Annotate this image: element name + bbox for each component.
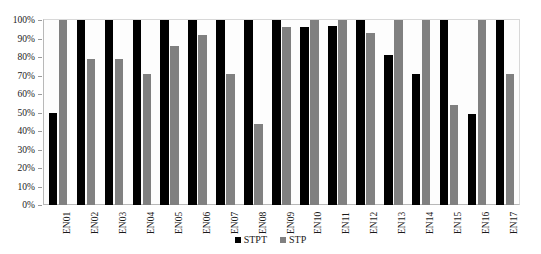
y-axis-tick-label: 60%: [18, 89, 35, 99]
y-axis-tick-mark: [38, 94, 42, 95]
y-axis-tick-label: 40%: [18, 126, 35, 136]
legend-item-stpt[interactable]: STPT: [235, 234, 267, 245]
x-axis-tick-label: EN05: [174, 212, 184, 234]
legend-swatch-stpt-icon: [235, 237, 241, 243]
x-axis-tick-label: EN10: [313, 212, 323, 234]
bar-stp-en16[interactable]: [478, 20, 487, 205]
bars-layer: [44, 20, 519, 205]
x-axis-tick-label: EN07: [230, 212, 240, 234]
y-axis-tick-mark: [38, 76, 42, 77]
bar-stpt-en14[interactable]: [412, 74, 421, 205]
y-axis-tick-mark: [38, 57, 42, 58]
y-axis-tick-mark: [38, 150, 42, 151]
y-axis-tick-mark: [38, 131, 42, 132]
bar-stpt-en10[interactable]: [300, 27, 309, 205]
chart-legend: STPT STP: [0, 234, 541, 245]
bar-group: [351, 20, 379, 205]
y-axis-tick-mark: [38, 39, 42, 40]
bar-stp-en14[interactable]: [422, 20, 431, 205]
legend-label-stpt: STPT: [244, 234, 267, 245]
y-axis-tick-mark: [38, 113, 42, 114]
y-axis-tick-label: 90%: [18, 34, 35, 44]
x-axis-tick-label: EN15: [453, 212, 463, 234]
bar-stp-en03[interactable]: [115, 59, 124, 205]
x-axis-tick-label: EN02: [90, 212, 100, 234]
bar-group: [379, 20, 407, 205]
y-axis-tick-label: 0%: [22, 200, 35, 210]
bar-stp-en09[interactable]: [282, 27, 291, 205]
x-axis-tick-label: EN06: [202, 212, 212, 234]
bar-stp-en05[interactable]: [170, 46, 179, 205]
x-axis-tick-label: EN04: [146, 212, 156, 234]
bar-group: [72, 20, 100, 205]
x-axis-tick-label: EN16: [481, 212, 491, 234]
bar-stpt-en12[interactable]: [356, 20, 365, 205]
bar-stp-en07[interactable]: [226, 74, 235, 205]
bar-stp-en11[interactable]: [338, 20, 347, 205]
x-axis-tick-label: EN09: [286, 212, 296, 234]
bar-stpt-en17[interactable]: [496, 20, 505, 205]
bar-group: [128, 20, 156, 205]
bar-stpt-en02[interactable]: [77, 20, 86, 205]
bar-stpt-en11[interactable]: [328, 26, 337, 205]
y-axis-tick-label: 50%: [18, 108, 35, 118]
y-axis: 0%10%20%30%40%50%60%70%80%90%100%: [0, 0, 40, 254]
x-axis-tick-label: EN11: [341, 212, 351, 234]
bar-group: [407, 20, 435, 205]
x-axis-tick-label: EN17: [509, 212, 519, 234]
y-axis-tick-mark: [38, 205, 42, 206]
y-axis-tick-label: 80%: [18, 52, 35, 62]
bar-stpt-en03[interactable]: [105, 20, 114, 205]
bar-group: [212, 20, 240, 205]
y-axis-tick-mark: [38, 168, 42, 169]
y-axis-tick-label: 20%: [18, 163, 35, 173]
y-axis-tick-label: 10%: [18, 182, 35, 192]
bar-stpt-en08[interactable]: [244, 20, 253, 205]
bar-stpt-en07[interactable]: [216, 20, 225, 205]
bar-stpt-en09[interactable]: [272, 20, 281, 205]
x-axis-tick-label: EN01: [62, 212, 72, 234]
y-axis-tick-label: 70%: [18, 71, 35, 81]
x-axis-tick-label: EN13: [397, 212, 407, 234]
x-axis-tick-label: EN12: [369, 212, 379, 234]
bar-stp-en08[interactable]: [254, 124, 263, 205]
legend-label-stp: STP: [289, 234, 306, 245]
legend-item-stp[interactable]: STP: [280, 234, 306, 245]
bar-group: [491, 20, 519, 205]
x-axis-tick-label: EN08: [258, 212, 268, 234]
bar-stp-en02[interactable]: [87, 59, 96, 205]
bar-stp-en17[interactable]: [506, 74, 515, 205]
y-axis-tick-mark: [38, 20, 42, 21]
x-axis-tick-label: EN03: [118, 212, 128, 234]
bar-group: [44, 20, 72, 205]
bar-stp-en04[interactable]: [143, 74, 152, 205]
bar-stp-en12[interactable]: [366, 33, 375, 205]
bar-stpt-en15[interactable]: [440, 20, 449, 205]
bar-group: [184, 20, 212, 205]
x-axis: EN01EN02EN03EN04EN05EN06EN07EN08EN09EN10…: [44, 206, 519, 236]
bar-stp-en01[interactable]: [59, 20, 68, 205]
y-axis-tick-mark: [38, 187, 42, 188]
x-axis-tick-label: EN14: [425, 212, 435, 234]
bar-stpt-en05[interactable]: [160, 20, 169, 205]
bar-stp-en13[interactable]: [394, 20, 403, 205]
y-axis-tick-label: 100%: [13, 15, 35, 25]
bar-stpt-en13[interactable]: [384, 55, 393, 205]
bar-stpt-en04[interactable]: [133, 20, 142, 205]
bar-stp-en10[interactable]: [310, 20, 319, 205]
bar-stpt-en06[interactable]: [188, 20, 197, 205]
y-axis-tick-label: 30%: [18, 145, 35, 155]
bar-group: [435, 20, 463, 205]
bar-stpt-en01[interactable]: [49, 113, 58, 206]
bar-group: [295, 20, 323, 205]
bar-stp-en15[interactable]: [450, 105, 459, 205]
bar-group: [463, 20, 491, 205]
bar-stp-en06[interactable]: [198, 35, 207, 205]
bar-group: [240, 20, 268, 205]
bar-chart: 0%10%20%30%40%50%60%70%80%90%100% EN01EN…: [0, 0, 541, 254]
bar-group: [100, 20, 128, 205]
bar-stpt-en16[interactable]: [468, 114, 477, 205]
legend-swatch-stp-icon: [280, 237, 286, 243]
bar-group: [268, 20, 296, 205]
bar-group: [156, 20, 184, 205]
